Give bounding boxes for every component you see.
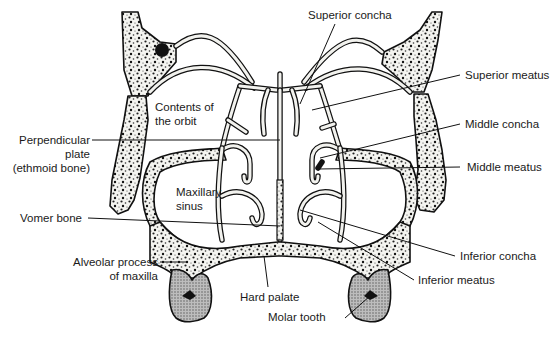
left-molar-tooth <box>169 269 211 321</box>
label-contents-of-orbit: Contents of the orbit <box>155 100 214 128</box>
label-superior-meatus: Superior meatus <box>465 68 549 82</box>
label-inferior-concha: Inferior concha <box>460 249 536 263</box>
nasal-septum <box>277 90 283 240</box>
right-molar-tooth <box>349 269 391 321</box>
label-molar-tooth: Molar tooth <box>268 310 326 324</box>
label-inferior-meatus: Inferior meatus <box>418 273 495 287</box>
label-perpendicular-plate: Perpendicular plate (ethmoid bone) <box>13 133 90 175</box>
label-vomer-bone: Vomer bone <box>20 211 82 225</box>
label-alveolar-process: Alveolar process of maxilla <box>73 255 158 283</box>
label-middle-meatus: Middle meatus <box>467 160 542 174</box>
label-superior-concha: Superior concha <box>308 8 392 22</box>
label-middle-concha: Middle concha <box>465 117 539 131</box>
label-hard-palate: Hard palate <box>240 290 299 304</box>
label-maxillary-sinus: Maxillary sinus <box>176 185 221 213</box>
